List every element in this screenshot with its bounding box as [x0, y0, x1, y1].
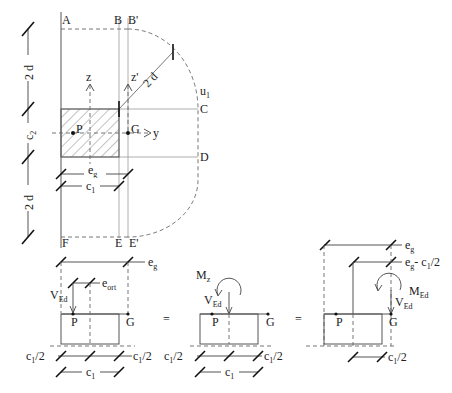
label-p: P [76, 122, 83, 136]
label-g: G [389, 315, 398, 329]
label-c1-half-right: c1/2 [264, 349, 283, 365]
label-ved: VEd [50, 288, 68, 304]
label-eg: eg [148, 255, 157, 271]
label-eg: eg [405, 238, 414, 254]
label-d: D [200, 150, 209, 164]
punching-shear-diagram: A B B' C D E E' F u1 2 d z z' y P G eg c… [0, 0, 452, 393]
label-f: F [62, 236, 69, 250]
label-z: z [86, 70, 91, 84]
equals-sign: = [295, 312, 302, 326]
label-e: E [115, 236, 122, 250]
label-g: G [131, 122, 140, 136]
label-p: P [71, 315, 78, 329]
label-2d-radius: 2 d [140, 70, 160, 91]
label-c1-half-right: c1/2 [388, 350, 407, 366]
point-g [126, 131, 130, 135]
label-u1: u1 [200, 84, 210, 100]
point-p [71, 131, 75, 135]
label-b: B [114, 13, 122, 27]
label-c1-half-left: c1/2 [26, 349, 45, 365]
label-g: G [266, 315, 275, 329]
label-y: y [153, 126, 159, 140]
label-c1-half-right: c1/2 [133, 349, 152, 365]
label-med: MEd [409, 284, 429, 300]
bottom-view-original: eg eort VEd P G c1/2 c1/2 c1 [26, 255, 157, 381]
label-e-prime: E' [129, 236, 139, 250]
label-b-prime: B' [128, 13, 138, 27]
label-eg-minus-c1-half: eg- c1/2 [405, 255, 440, 271]
bottom-view-transferred: eg eg- c1/2 MEd VEd P G c1/2 [306, 238, 440, 366]
bottom-view-centered: Mz VEd P G c1/2 c1/2 c1 [164, 268, 283, 381]
label-2d-bottom: 2 d [22, 195, 36, 210]
label-p: P [336, 315, 343, 329]
label-2d-top: 2 d [22, 65, 36, 80]
top-view: A B B' C D E E' F u1 2 d z z' y P G eg c… [21, 12, 210, 250]
label-c1-half-left: c1/2 [164, 349, 183, 365]
label-g: G [126, 315, 135, 329]
arrow-icon [375, 284, 382, 291]
label-eort: eort [102, 276, 117, 292]
equals-sign: = [163, 312, 170, 326]
arrow-icon [215, 289, 222, 296]
label-c: C [200, 102, 208, 116]
label-mz: Mz [196, 268, 211, 284]
label-z-prime: z' [131, 70, 139, 84]
label-a: A [62, 13, 71, 27]
label-p: P [212, 315, 219, 329]
